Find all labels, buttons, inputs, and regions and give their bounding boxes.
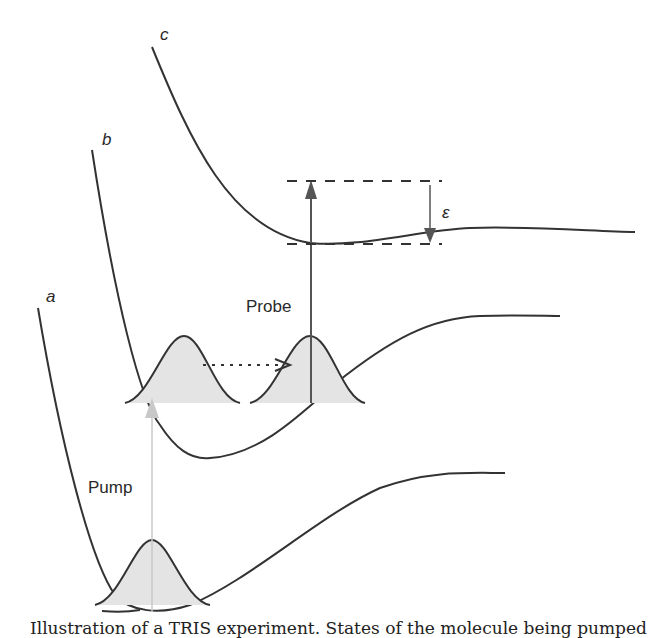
potential-curve-a [38, 308, 505, 611]
wavepacket-excited-propagated [250, 336, 365, 403]
potential-curve-b [92, 150, 560, 458]
potential-curve-c [152, 47, 635, 244]
probe-label: Probe [246, 297, 291, 316]
curve-label-b: b [102, 130, 111, 149]
epsilon-arrowhead-icon [424, 228, 436, 243]
pump-label: Pump [88, 478, 132, 497]
curve-label-a: a [46, 287, 55, 306]
wavepacket-excited-initial [125, 336, 240, 403]
epsilon-label: ε [442, 203, 450, 222]
probe-arrowhead-icon [305, 180, 317, 199]
figure-caption: Illustration of a TRIS experiment. State… [30, 618, 647, 638]
curve-label-c: c [160, 25, 169, 44]
